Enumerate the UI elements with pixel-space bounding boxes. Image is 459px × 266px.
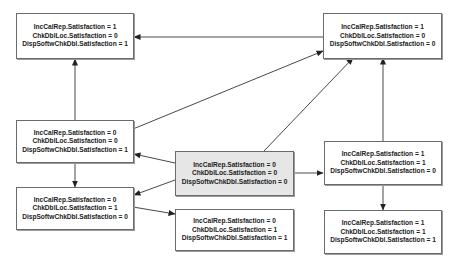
node-line: IncCalRep.Satisfaction = 1 bbox=[342, 219, 425, 228]
node-line: ChkDblLoc.Satisfaction = 1 bbox=[340, 228, 425, 237]
edge-d-to-b bbox=[264, 58, 353, 151]
node-line: ChkDblLoc.Satisfaction = 1 bbox=[192, 226, 277, 235]
node-line: ChkDblLoc.Satisfaction = 1 bbox=[340, 159, 425, 168]
node-line: IncCalRep.Satisfaction = 0 bbox=[193, 161, 276, 170]
edge-f-to-g bbox=[133, 207, 175, 214]
state-node-b: IncCalRep.Satisfaction = 1 ChkDblLoc.Sat… bbox=[323, 13, 442, 59]
node-line: IncCalRep.Satisfaction = 0 bbox=[34, 129, 117, 138]
node-line: DispSoftwChkDbl.Satisfaction = 0 bbox=[182, 178, 288, 187]
node-line: ChkDblLoc.Satisfaction = 0 bbox=[32, 137, 117, 146]
state-node-f: IncCalRep.Satisfaction = 0 ChkDblLoc.Sat… bbox=[16, 187, 134, 230]
edge-d-to-f bbox=[134, 180, 175, 195]
state-node-e: IncCalRep.Satisfaction = 1 ChkDblLoc.Sat… bbox=[324, 141, 442, 185]
node-line: IncCalRep.Satisfaction = 1 bbox=[34, 23, 117, 32]
state-node-h: IncCalRep.Satisfaction = 1 ChkDblLoc.Sat… bbox=[324, 210, 442, 254]
state-node-d-current: IncCalRep.Satisfaction = 0 ChkDblLoc.Sat… bbox=[175, 151, 294, 196]
node-line: ChkDblLoc.Satisfaction = 0 bbox=[192, 169, 277, 178]
node-line: DispSoftwChkDbl.Satisfaction = 1 bbox=[22, 40, 128, 49]
node-line: ChkDblLoc.Satisfaction = 0 bbox=[32, 32, 117, 41]
node-line: IncCalRep.Satisfaction = 0 bbox=[193, 217, 276, 226]
state-node-g: IncCalRep.Satisfaction = 0 ChkDblLoc.Sat… bbox=[175, 209, 294, 251]
node-line: ChkDblLoc.Satisfaction = 0 bbox=[340, 32, 425, 41]
node-line: DispSoftwChkDbl.Satisfaction = 0 bbox=[330, 167, 436, 176]
state-node-a: IncCalRep.Satisfaction = 1 ChkDblLoc.Sat… bbox=[16, 13, 134, 59]
edge-d-to-c bbox=[134, 154, 175, 163]
node-line: ChkDblLoc.Satisfaction = 1 bbox=[32, 204, 117, 213]
edge-c-to-b bbox=[133, 51, 323, 129]
node-line: DispSoftwChkDbl.Satisfaction = 1 bbox=[22, 146, 128, 155]
node-line: IncCalRep.Satisfaction = 1 bbox=[341, 23, 424, 32]
node-line: IncCalRep.Satisfaction = 0 bbox=[34, 196, 117, 205]
node-line: DispSoftwChkDbl.Satisfaction = 0 bbox=[330, 40, 436, 49]
node-line: DispSoftwChkDbl.Satisfaction = 0 bbox=[22, 213, 128, 222]
state-node-c: IncCalRep.Satisfaction = 0 ChkDblLoc.Sat… bbox=[16, 120, 134, 163]
node-line: DispSoftwChkDbl.Satisfaction = 1 bbox=[182, 234, 288, 243]
node-line: IncCalRep.Satisfaction = 1 bbox=[342, 150, 425, 159]
node-line: DispSoftwChkDbl.Satisfaction = 1 bbox=[330, 236, 436, 245]
